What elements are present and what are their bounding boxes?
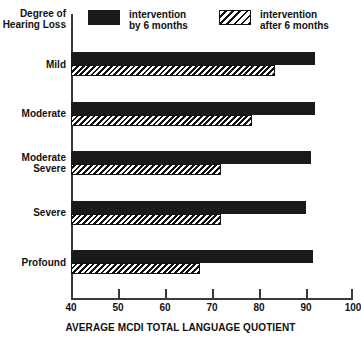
bar-by-6-months-0 [71,52,315,65]
category-label-mild: Mild [0,59,66,70]
y-axis-title: Degree of Hearing Loss [2,8,66,30]
x-tick-label-100: 100 [345,302,361,313]
y-axis-title-line2: Hearing Loss [3,19,66,30]
x-tick-label-70: 70 [206,302,217,313]
bar-by-6-months-2 [71,151,311,164]
x-axis-line [71,298,353,300]
bar-after-6-months-2 [71,164,221,175]
x-tick-label-60: 60 [159,302,170,313]
bar-chart: intervention by 6 months intervention af… [0,0,361,347]
bar-after-6-months-1 [71,115,252,126]
bar-after-6-months-3 [71,214,221,225]
x-tick-label-40: 40 [65,302,76,313]
bar-after-6-months-4 [71,263,200,274]
category-label-line1: Moderate [22,108,66,119]
category-label-line1: Profound [22,257,66,268]
category-label-line1: Severe [33,207,66,218]
x-tick-label-90: 90 [300,302,311,313]
bar-group-mild [71,52,353,76]
x-tick-label-50: 50 [112,302,123,313]
bar-by-6-months-1 [71,102,315,115]
x-tick-100 [351,289,353,298]
category-label-severe: Severe [0,207,66,218]
x-tick-70 [212,289,214,298]
bar-group-severe [71,201,353,225]
category-label-line2: Severe [33,163,66,174]
bar-by-6-months-3 [71,201,306,214]
category-label-moderate: Moderate [0,108,66,119]
x-tick-50 [118,289,120,298]
bar-by-6-months-4 [71,250,313,263]
category-label-moderate-severe: ModerateSevere [0,152,66,174]
x-tick-40 [71,289,73,298]
bar-group-profound [71,250,353,274]
x-tick-90 [306,289,308,298]
y-axis-title-line1: Degree of [20,8,66,19]
bar-after-6-months-0 [71,65,275,76]
x-axis-title: AVERAGE MCDI TOTAL LANGUAGE QUOTIENT [0,322,361,333]
x-tick-60 [165,289,167,298]
category-label-line1: Moderate [22,152,66,163]
category-label-profound: Profound [0,257,66,268]
x-tick-label-80: 80 [253,302,264,313]
x-tick-80 [259,289,261,298]
plot-area [71,14,353,300]
bar-group-moderate [71,102,353,126]
category-label-line1: Mild [46,59,66,70]
bar-group-moderate-severe [71,151,353,175]
